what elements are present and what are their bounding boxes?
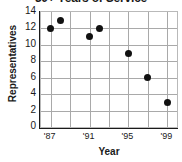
y-axis-line — [39, 11, 40, 129]
x-tick-label: '95 — [122, 131, 134, 141]
y-axis-title: Representatives — [7, 4, 18, 124]
x-axis-tick-labels: '87'91'95'99 — [40, 131, 178, 143]
data-point — [164, 99, 171, 106]
gridline-vertical — [148, 12, 149, 127]
x-axis-title: Year — [40, 146, 178, 157]
data-point — [86, 33, 93, 40]
x-axis-line — [39, 128, 178, 129]
gridline-vertical — [70, 12, 71, 127]
gridline-vertical — [167, 12, 168, 127]
data-point — [96, 25, 103, 32]
x-tick-label: '91 — [83, 131, 95, 141]
data-point — [125, 50, 132, 57]
scatter-plot-chart: 30+ Years of Service 14121086420 '87'91'… — [0, 0, 182, 162]
x-tick-label: '87 — [44, 131, 56, 141]
plot-area — [40, 11, 178, 128]
x-tick-label: '99 — [160, 131, 172, 141]
gridline-vertical — [90, 12, 91, 127]
gridline-vertical — [109, 12, 110, 127]
data-point — [144, 74, 151, 81]
data-point — [47, 25, 54, 32]
data-point — [57, 17, 64, 24]
gridline-vertical — [128, 12, 129, 127]
